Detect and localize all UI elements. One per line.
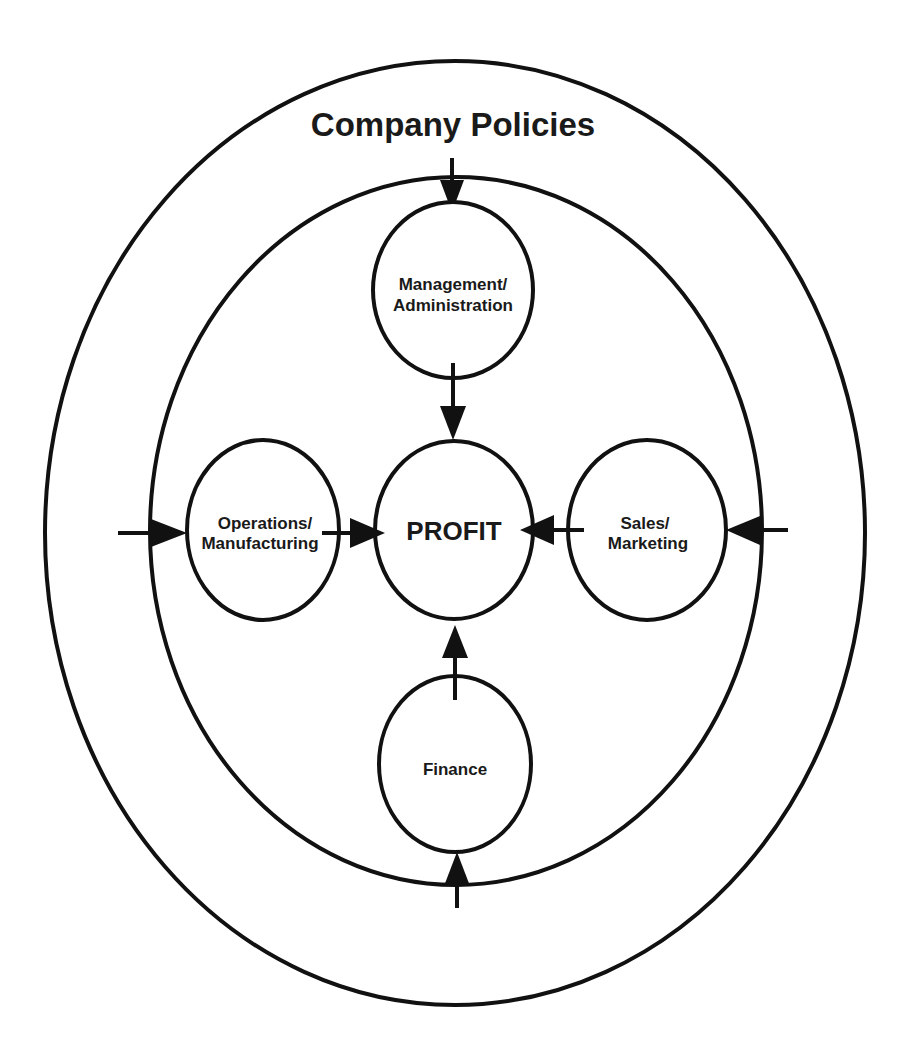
node-sales-line1: Sales/ (620, 514, 669, 533)
node-finance-label: Finance (423, 760, 487, 779)
node-operations-line2: Manufacturing (201, 534, 318, 553)
arrow-bottom-inward (444, 852, 470, 908)
arrow-left-inward (118, 519, 187, 547)
node-operations-line1: Operations/ (218, 514, 313, 533)
node-sales-line2: Marketing (608, 534, 688, 553)
node-management-line2: Administration (393, 296, 513, 315)
node-profit-label: PROFIT (406, 516, 501, 546)
diagram-title: Company Policies (311, 106, 595, 143)
arrow-right-inward (726, 516, 788, 545)
node-management-line1: Management/ (399, 275, 508, 294)
company-policies-diagram: Company Policies Management/ Administrat… (0, 0, 902, 1053)
